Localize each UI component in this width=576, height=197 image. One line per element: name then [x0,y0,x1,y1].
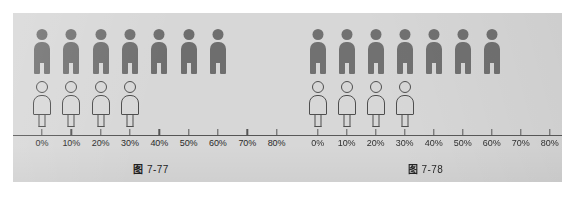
person-torso [63,42,79,63]
person-solid-icon [335,29,359,75]
person-leg-left [63,61,69,74]
person-leg-right [191,61,197,74]
person-torso [426,42,442,63]
person-outline-icon [118,81,142,127]
outline-person-row [13,79,289,127]
caption-cjk-label: 图 [133,164,143,175]
person-head [212,29,223,40]
person-head [95,29,106,40]
person-head [36,81,48,93]
axis-tick [462,129,463,136]
person-head [486,29,497,40]
person-torso [368,42,384,63]
axis-tick [433,129,434,136]
person-solid-icon [451,29,475,75]
person-leg-right [132,61,138,74]
person-solid-icon [422,29,446,75]
person-outline-icon [59,81,83,127]
person-head [95,81,107,93]
person-solid-icon [30,29,54,75]
figure-7-77: 0%10%20%30%40%50%60%70%80% 图 7-77 [13,13,289,182]
person-head [65,81,77,93]
axis-tick-label: 80% [268,138,286,149]
person-outline-icon [364,81,388,127]
person-head [341,29,352,40]
axis-tick-label: 50% [180,138,198,149]
person-outline-icon [306,81,330,127]
person-torso [397,42,413,63]
person-leg-right [436,61,442,74]
x-axis: 0%10%20%30%40%50%60%70%80% [289,125,562,155]
person-head [124,29,135,40]
axis-tick-label: 0% [311,138,324,149]
axis-tick [217,129,218,136]
person-leg-left [181,61,187,74]
person-torso [122,42,138,63]
person-torso [367,95,385,115]
axis-tick-label: 40% [150,138,168,149]
person-leg-right [407,61,413,74]
person-head [341,81,353,93]
axis-tick [346,129,347,136]
person-head [428,29,439,40]
axis-tick [375,129,376,136]
figure-caption: 图 7-77 [13,161,289,176]
person-leg-right [220,61,226,74]
solid-person-row [13,27,289,75]
axis-tick-label: 50% [454,138,472,149]
person-outline-icon [30,81,54,127]
person-head [124,81,136,93]
person-leg-right [349,61,355,74]
person-head [183,29,194,40]
person-leg-left [339,61,345,74]
axis-tick [129,129,130,136]
person-leg-right [44,61,50,74]
axis-tick-label: 40% [425,138,443,149]
person-solid-icon [364,29,388,75]
person-torso [151,42,167,63]
axis-tick [41,129,42,136]
axis-tick-label: 30% [396,138,414,149]
axis-tick [188,129,189,136]
person-head [312,81,324,93]
person-leg-left [34,61,40,74]
axis-tick-label: 70% [512,138,530,149]
person-solid-icon [89,29,113,75]
axis-tick-label: 20% [92,138,110,149]
axis-tick-label: 10% [338,138,356,149]
person-leg-right [378,61,384,74]
person-solid-icon [147,29,171,75]
figure-7-78: 0%10%20%30%40%50%60%70%80% 图 7-78 [289,13,562,182]
person-leg-right [103,61,109,74]
person-torso [121,95,139,115]
caption-number: 7-78 [421,164,443,175]
person-outline-icon [335,81,359,127]
axis-tick-label: 80% [541,138,559,149]
axis-tick-label: 60% [483,138,501,149]
person-head [399,81,411,93]
person-leg-left [210,61,216,74]
axis-tick-label: 10% [62,138,80,149]
person-torso [34,42,50,63]
person-head [154,29,165,40]
person-torso [310,42,326,63]
person-head [312,29,323,40]
person-torso [33,95,51,115]
caption-number: 7-77 [147,164,169,175]
person-head [457,29,468,40]
person-solid-icon [177,29,201,75]
axis-tick [247,129,248,136]
person-head [399,29,410,40]
person-outline-icon [393,81,417,127]
axis-tick-label: 60% [209,138,227,149]
axis-tick [404,129,405,136]
axis-tick [71,129,72,136]
person-leg-right [494,61,500,74]
figure-caption: 图 7-78 [289,161,562,176]
person-torso [62,95,80,115]
axis-tick [159,129,160,136]
person-leg-right [161,61,167,74]
person-solid-icon [59,29,83,75]
person-leg-left [368,61,374,74]
person-leg-left [426,61,432,74]
